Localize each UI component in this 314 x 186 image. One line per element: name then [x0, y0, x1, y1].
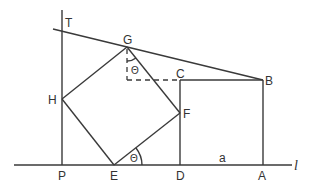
- label-T: T: [65, 16, 73, 30]
- label-F: F: [183, 107, 190, 121]
- label-line-l: l: [294, 158, 298, 173]
- angle-arc-G: [127, 58, 136, 61]
- segment-EF: [114, 113, 180, 165]
- theta-label-E: Θ: [130, 153, 138, 164]
- label-E: E: [110, 169, 118, 183]
- label-D: D: [176, 169, 185, 183]
- label-P: P: [58, 169, 66, 183]
- theta-label-G: Θ: [131, 65, 139, 76]
- label-a: a: [219, 151, 226, 165]
- label-C: C: [176, 67, 185, 81]
- label-G: G: [123, 33, 132, 47]
- label-B: B: [265, 74, 273, 88]
- label-H: H: [48, 93, 57, 107]
- geometry-diagram: T G B C H F P E D A a l Θ Θ: [0, 0, 314, 186]
- line-TB: [53, 29, 263, 80]
- label-A: A: [258, 169, 266, 183]
- segment-HE: [62, 99, 114, 165]
- segment-GH: [62, 47, 127, 99]
